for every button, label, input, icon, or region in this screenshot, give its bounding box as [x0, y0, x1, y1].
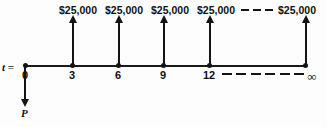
- tick-label-6: 6: [115, 70, 121, 81]
- cash-flow-label-6: $25,000: [105, 5, 143, 16]
- top-dash-group: [241, 9, 273, 11]
- time-axis-line: [25, 65, 307, 67]
- cash-flow-arrow-9: [163, 22, 165, 65]
- time-axis-label: t =: [2, 62, 14, 73]
- cash-flow-label-12: $25,000: [197, 5, 235, 16]
- present-worth-label: P: [21, 108, 28, 119]
- tick-label-12: 12: [203, 70, 215, 81]
- tick-label-9: 9: [160, 70, 166, 81]
- cash-flow-label-infinity: $25,000: [278, 5, 316, 16]
- tick-label-3: 3: [69, 70, 75, 81]
- cash-flow-diagram: t = 0 3 6 9 12 ∞ $25,000 $25,000 $25,000…: [0, 0, 327, 127]
- cash-flow-arrow-3: [72, 22, 74, 65]
- present-worth-arrow: [24, 65, 26, 100]
- infinity-label: ∞: [307, 70, 316, 83]
- cash-flow-label-3: $25,000: [59, 5, 97, 16]
- cash-flow-arrow-infinity: [305, 22, 307, 65]
- cash-flow-arrow-12: [209, 22, 211, 65]
- axis-dash-continuation: [222, 73, 304, 75]
- cash-flow-label-9: $25,000: [151, 5, 189, 16]
- cash-flow-arrow-6: [118, 22, 120, 65]
